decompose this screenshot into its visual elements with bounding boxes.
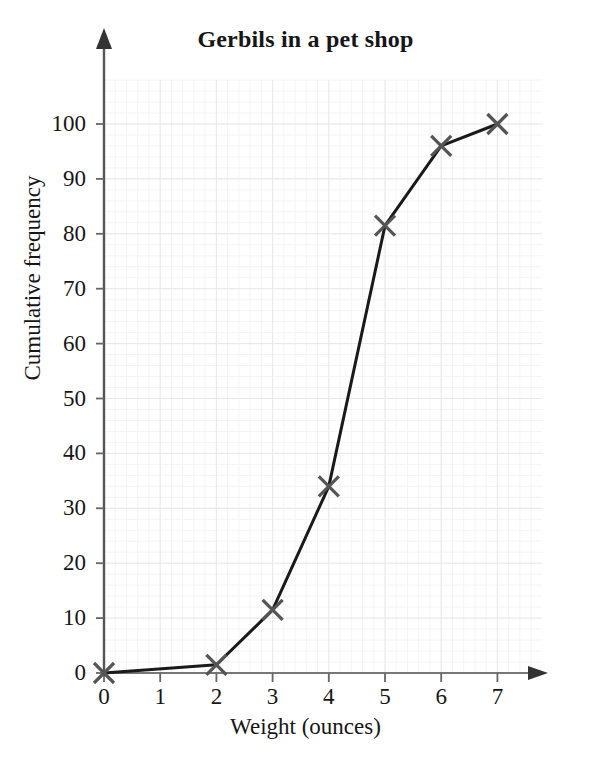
minor-gridlines	[104, 80, 542, 673]
axis-ticks	[96, 124, 497, 682]
chart-canvas: Gerbils in a pet shop Cumulative frequen…	[0, 0, 611, 770]
axis-lines	[96, 28, 548, 680]
plot-area	[0, 0, 611, 770]
